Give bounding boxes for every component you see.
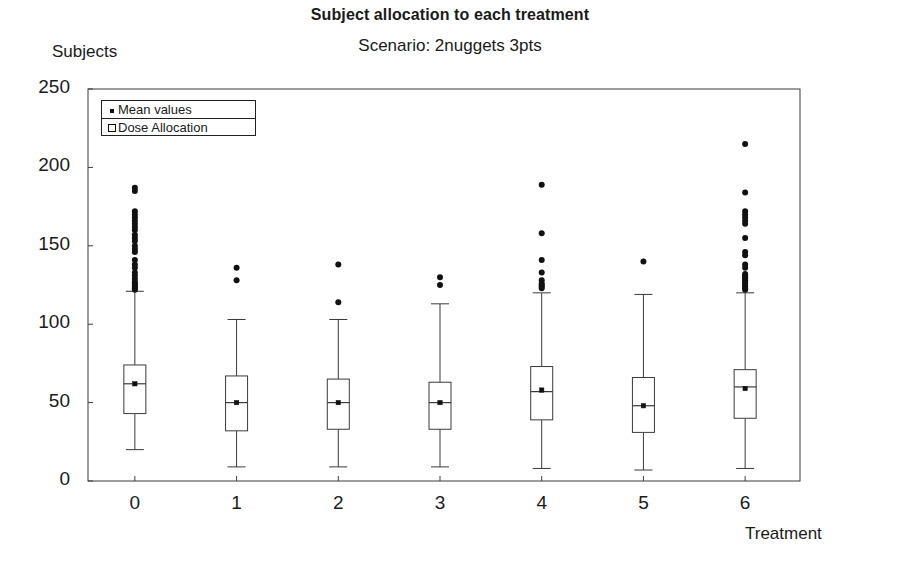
mean-marker — [438, 400, 442, 404]
y-tick-label: 150 — [10, 234, 70, 253]
legend-label-dose-allocation: Dose Allocation — [118, 120, 208, 135]
filled-square-icon — [105, 103, 118, 116]
outlier-point — [742, 189, 748, 195]
x-tick-label: 1 — [217, 493, 257, 512]
box-group — [327, 262, 349, 467]
outlier-point — [742, 287, 748, 293]
outlier-point — [742, 141, 748, 147]
outlier-point — [234, 277, 240, 283]
outlier-point — [640, 258, 646, 264]
outlier-point — [335, 262, 341, 268]
outlier-point — [539, 285, 545, 291]
box-group — [734, 141, 756, 469]
outlier-point — [539, 230, 545, 236]
box-group — [531, 182, 553, 469]
legend-item-mean-values: Mean values — [102, 101, 255, 118]
outlier-point — [335, 299, 341, 305]
chart-figure: Subject allocation to each treatment Sce… — [0, 0, 900, 564]
open-square-icon — [105, 121, 118, 134]
outlier-point — [742, 252, 748, 258]
mean-marker — [540, 388, 544, 392]
y-tick-label: 200 — [10, 155, 70, 174]
y-tick-label: 0 — [10, 469, 70, 488]
mean-marker — [336, 400, 340, 404]
mean-marker — [641, 404, 645, 408]
x-tick-label: 2 — [318, 493, 358, 512]
x-tick-label: 5 — [623, 493, 663, 512]
outlier-point — [742, 235, 748, 241]
box-group — [429, 274, 451, 467]
outlier-point — [132, 287, 138, 293]
x-tick-label: 0 — [115, 493, 155, 512]
outlier-point — [132, 188, 138, 194]
y-tick-label: 100 — [10, 312, 70, 331]
boxplot-canvas — [0, 0, 900, 564]
x-tick-label: 3 — [420, 493, 460, 512]
box-iqr — [124, 365, 146, 414]
outlier-point — [539, 257, 545, 263]
legend-label-mean-values: Mean values — [118, 102, 192, 117]
box-group — [226, 265, 248, 467]
box-iqr — [531, 367, 553, 420]
box-group — [632, 258, 654, 470]
y-tick-label: 250 — [10, 77, 70, 96]
y-tick-label: 50 — [10, 391, 70, 410]
mean-marker — [743, 386, 747, 390]
outlier-point — [132, 249, 138, 255]
box-group — [124, 185, 146, 450]
mean-marker — [234, 400, 238, 404]
outlier-point — [234, 265, 240, 271]
legend-item-dose-allocation: Dose Allocation — [102, 118, 255, 135]
outlier-point — [742, 221, 748, 227]
mean-marker — [133, 382, 137, 386]
outlier-point — [437, 282, 443, 288]
x-tick-label: 4 — [522, 493, 562, 512]
chart-legend: Mean values Dose Allocation — [101, 100, 256, 136]
box-iqr — [734, 370, 756, 419]
x-tick-label: 6 — [725, 493, 765, 512]
outlier-point — [539, 269, 545, 275]
outlier-point — [742, 265, 748, 271]
box-iqr — [429, 382, 451, 429]
outlier-point — [437, 274, 443, 280]
outlier-point — [539, 182, 545, 188]
